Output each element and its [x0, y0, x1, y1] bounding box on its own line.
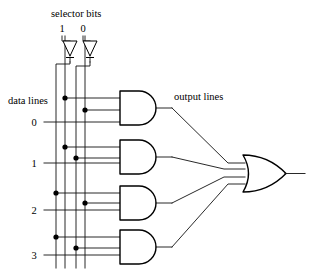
output-line-0 [172, 108, 245, 163]
and-gate-3 [120, 230, 172, 264]
data-lines-label: data lines [8, 95, 48, 106]
circuit-diagram: selector bits 1 0 data lines 0 1 2 3 out… [0, 0, 309, 272]
or-gate [243, 155, 305, 192]
inverter-s0 [76, 41, 97, 268]
junction-dot [53, 234, 58, 239]
junction-dot [73, 155, 78, 160]
inverter-s1 [56, 41, 77, 268]
junction-dot [53, 190, 58, 195]
circuit-svg: selector bits 1 0 data lines 0 1 2 3 out… [0, 0, 309, 272]
junction-dot [73, 245, 78, 250]
selector-0-jog [83, 36, 90, 41]
selector-bit-1-label: 1 [59, 23, 64, 34]
output-line-3 [172, 184, 245, 247]
and-gate-2 [120, 186, 172, 220]
output-lines-label: output lines [174, 91, 223, 102]
junction-dot [62, 95, 67, 100]
output-line-2 [172, 177, 245, 203]
data-line-0-label: 0 [31, 117, 36, 128]
and-gate-1 [120, 140, 172, 174]
and-gate-3-body [120, 230, 156, 264]
selector-1-jog [62, 36, 70, 41]
junction-dot [82, 107, 87, 112]
selector-bits-label: selector bits [51, 8, 101, 19]
junction-dot [82, 200, 87, 205]
junction-dots [53, 95, 87, 250]
data-line-1-label: 1 [31, 158, 36, 169]
selector-bit-0-label: 0 [80, 23, 85, 34]
and-gate-0 [120, 91, 172, 125]
selector-tap-wires [56, 98, 120, 248]
or-gate-body [243, 155, 286, 192]
and-gate-2-body [120, 186, 156, 220]
and-gate-1-body [120, 140, 156, 174]
junction-dot [62, 144, 67, 149]
and-gate-0-body [120, 91, 156, 125]
data-line-3-label: 3 [31, 250, 36, 261]
output-line-wires [172, 108, 245, 247]
data-line-2-label: 2 [31, 205, 36, 216]
